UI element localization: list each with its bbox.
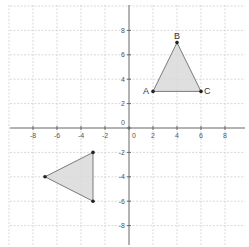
y-tick-label: 0 [121, 119, 125, 126]
x-tick-label: -6 [54, 132, 60, 139]
x-tick-label: 4 [175, 132, 179, 139]
coordinate-plane: -8-6-4-20246886420-2-4-6-8 ABC [0, 0, 249, 247]
x-tick-label: 0 [132, 132, 136, 139]
y-tick-label: -4 [119, 173, 125, 180]
y-tick-label: -8 [119, 222, 125, 229]
axis-layer [10, 5, 245, 245]
y-tick-label: -2 [119, 149, 125, 156]
vertex-label-c: C [204, 86, 211, 96]
triangle-abc [153, 43, 201, 92]
y-tick-label: -6 [119, 198, 125, 205]
grid-layer [9, 5, 245, 245]
y-tick-label: 2 [121, 100, 125, 107]
x-tick-label: 8 [223, 132, 227, 139]
x-tick-label: -4 [78, 132, 84, 139]
y-tick-label: 8 [121, 27, 125, 34]
vertex-point [199, 90, 203, 94]
vertex-point [91, 199, 95, 203]
vertex-point [43, 175, 47, 179]
y-tick-label: 4 [121, 76, 125, 83]
vertex-point [175, 41, 179, 45]
vertex-point [91, 151, 95, 155]
y-tick-label: 6 [121, 51, 125, 58]
x-tick-label: -8 [30, 132, 36, 139]
vertex-label-b: B [174, 31, 180, 41]
x-tick-label: -2 [102, 132, 108, 139]
x-tick-label: 6 [199, 132, 203, 139]
vertex-label-a: A [143, 86, 149, 96]
x-tick-label: 2 [151, 132, 155, 139]
vertex-point [151, 90, 155, 94]
triangle-image [45, 152, 93, 201]
